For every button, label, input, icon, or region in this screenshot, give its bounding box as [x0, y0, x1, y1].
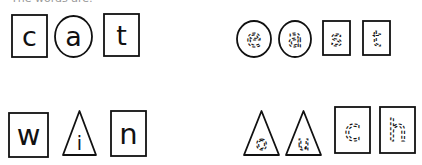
circle-outline-icon: a — [54, 15, 93, 58]
letter-glyph: h — [388, 113, 407, 148]
letter-glyph: w — [17, 118, 41, 152]
letter-tile-triangle: i — [62, 110, 97, 156]
letter-tile-square: n — [110, 110, 147, 157]
letter-glyph: s — [331, 26, 342, 51]
letter-tile-square: t — [362, 20, 391, 56]
circle-outline-icon: a — [278, 20, 312, 58]
letter-tile-square: t — [103, 13, 140, 57]
square-outline-icon: t — [362, 20, 391, 56]
triangle-outline-icon: u — [285, 110, 322, 156]
letter-glyph: o — [256, 132, 268, 154]
letter-glyph: e — [247, 25, 262, 53]
letter-glyph: t — [372, 26, 381, 51]
letter-glyph: a — [288, 25, 303, 53]
square-outline-icon: w — [8, 112, 49, 158]
square-outline-icon: n — [110, 110, 147, 157]
letter-tile-circle: a — [54, 15, 93, 58]
letter-glyph: c — [344, 113, 361, 148]
letter-tile-circle: e — [236, 20, 272, 58]
circle-outline-icon: e — [236, 20, 272, 58]
letter-glyph: c — [22, 21, 37, 52]
letter-tile-triangle: u — [285, 110, 322, 156]
square-outline-icon: t — [103, 13, 140, 57]
letter-tile-triangle: o — [243, 110, 280, 156]
letter-tile-square: w — [8, 112, 49, 158]
square-outline-icon: c — [11, 14, 48, 58]
square-outline-icon: h — [379, 106, 416, 154]
letter-glyph: n — [119, 117, 137, 151]
letter-glyph: t — [116, 20, 127, 51]
square-outline-icon: s — [322, 20, 351, 56]
letter-glyph: i — [77, 132, 82, 154]
letter-tile-circle: a — [278, 20, 312, 58]
triangle-outline-icon: i — [62, 110, 97, 156]
letter-tile-square: c — [11, 14, 48, 58]
letter-glyph: a — [65, 21, 82, 52]
letter-glyph: u — [297, 132, 309, 154]
triangle-outline-icon: o — [243, 110, 280, 156]
square-outline-icon: c — [334, 106, 371, 154]
letter-tile-square: c — [334, 106, 371, 154]
letter-tile-square: h — [379, 106, 416, 154]
letter-tile-square: s — [322, 20, 351, 56]
letter-shape-worksheet: cateastwinouch — [0, 0, 422, 165]
